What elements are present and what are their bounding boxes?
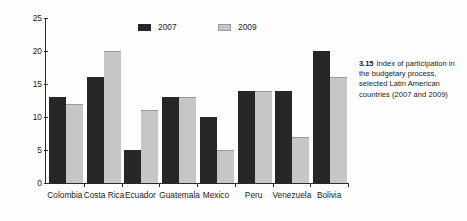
y-tick-label: 5	[24, 146, 42, 154]
bar-chart: 100 = maximum participation 0510152025 C…	[0, 0, 356, 221]
x-tick-mark	[84, 183, 85, 187]
y-axis-tick-labels: 0510152025	[24, 0, 42, 221]
x-tick-mark	[235, 183, 236, 187]
y-tick-label: 0	[24, 179, 42, 187]
figure-caption-text: Index of participation in the budgetary …	[359, 59, 455, 99]
bar-costa-rica-2009	[104, 51, 121, 183]
x-tick-mark	[122, 183, 123, 187]
legend-entry-2009: 2009	[218, 22, 257, 32]
category-label: Venezuela	[273, 190, 311, 200]
bar-ecuador-2009	[141, 110, 158, 183]
y-tick-label: 25	[24, 14, 42, 22]
legend-swatch-icon	[138, 24, 151, 31]
legend-label: 2007	[158, 22, 177, 32]
bar-mexico-2007	[200, 117, 217, 183]
y-tick-label: 10	[24, 113, 42, 121]
bar-group	[49, 18, 83, 183]
y-tick-label: 20	[24, 47, 42, 55]
bar-venezuela-2009	[292, 137, 309, 183]
bar-bolivia-2007	[313, 51, 330, 183]
category-label: Costa Rica	[84, 190, 122, 200]
bar-bolivia-2009	[330, 77, 347, 183]
bar-group	[313, 18, 347, 183]
bar-colombia-2007	[49, 97, 66, 183]
category-label: Peru	[235, 190, 273, 200]
bar-group	[87, 18, 121, 183]
category-label: Bolivia	[310, 190, 348, 200]
bar-group	[275, 18, 309, 183]
figure-container: 100 = maximum participation 0510152025 C…	[0, 0, 467, 221]
y-tick-label: 15	[24, 80, 42, 88]
figure-number: 3.15	[359, 59, 373, 68]
figure-caption: 3.15Index of participation in the budget…	[359, 59, 463, 100]
bar-guatemala-2007	[162, 97, 179, 183]
bar-group	[162, 18, 196, 183]
x-tick-mark	[310, 183, 311, 187]
plot-area	[46, 18, 348, 183]
bar-group	[200, 18, 234, 183]
legend-entry-2007: 2007	[138, 22, 177, 32]
category-label: Mexico	[197, 190, 235, 200]
bar-guatemala-2009	[179, 97, 196, 183]
bar-group	[238, 18, 272, 183]
bar-peru-2007	[238, 91, 255, 183]
category-label: Guatemala	[159, 190, 197, 200]
x-tick-mark	[348, 183, 349, 187]
bar-peru-2009	[255, 91, 272, 183]
bar-colombia-2009	[66, 104, 83, 183]
bar-group	[124, 18, 158, 183]
bar-venezuela-2007	[275, 91, 292, 183]
category-label: Ecuador	[122, 190, 160, 200]
legend-swatch-icon	[218, 24, 231, 31]
bar-mexico-2009	[217, 150, 234, 183]
bar-costa-rica-2007	[87, 77, 104, 183]
x-tick-mark	[159, 183, 160, 187]
bar-ecuador-2007	[124, 150, 141, 183]
x-tick-mark	[197, 183, 198, 187]
category-label: Colombia	[46, 190, 84, 200]
legend-label: 2009	[238, 22, 257, 32]
x-tick-mark	[273, 183, 274, 187]
